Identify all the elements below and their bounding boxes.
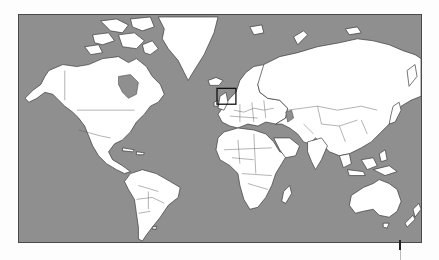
- map-page: [0, 0, 439, 260]
- scale-tick-faint: [400, 250, 401, 260]
- world-map-svg: [19, 15, 421, 242]
- world-map[interactable]: [18, 14, 422, 243]
- scale-tick-mark: [399, 240, 401, 250]
